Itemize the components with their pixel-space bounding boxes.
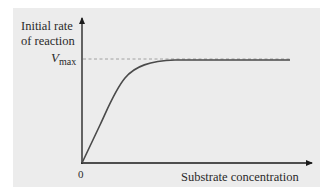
y-axis-label: Initial rate of reaction [21, 19, 75, 49]
x-axis-label: Substrate concentration [181, 170, 299, 185]
rate-curve [82, 60, 290, 163]
origin-tick-label: 0 [78, 168, 84, 180]
vmax-label: Vmax [51, 50, 76, 67]
